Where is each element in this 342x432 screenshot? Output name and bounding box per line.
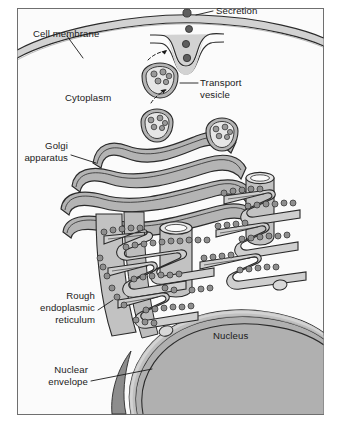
label-rough-er-line1: Rough (0, 290, 95, 302)
label-nuclear-envelope-line1: Nuclear (0, 364, 88, 376)
label-nucleus: Nucleus (213, 330, 248, 342)
label-nuclear-envelope-line2: envelope (0, 376, 88, 388)
label-secretion: Secretion (216, 5, 257, 17)
label-golgi-line1: Golgi (0, 140, 68, 152)
label-rough-er-line3: reticulum (0, 314, 95, 326)
label-cytoplasm: Cytoplasm (65, 92, 111, 104)
secretion-granule (182, 40, 189, 47)
secretion-granule (186, 26, 193, 33)
label-golgi-line2: apparatus (0, 152, 68, 164)
label-transport-vesicle-line2: vesicle (200, 89, 230, 101)
golgi-budding-vesicle (206, 118, 238, 151)
transport-vesicle-lower (141, 109, 173, 142)
secretion-granule (183, 9, 191, 17)
label-cell-membrane: Cell membrane (33, 28, 99, 40)
secretion-granule (183, 54, 190, 61)
label-transport-vesicle-line1: Transport (200, 77, 242, 89)
transport-vesicle-upper (142, 63, 178, 98)
diagram-canvas: Cell membrane Cytoplasm Secretion Transp… (0, 0, 342, 432)
label-rough-er-line2: endoplasmic (0, 302, 95, 314)
